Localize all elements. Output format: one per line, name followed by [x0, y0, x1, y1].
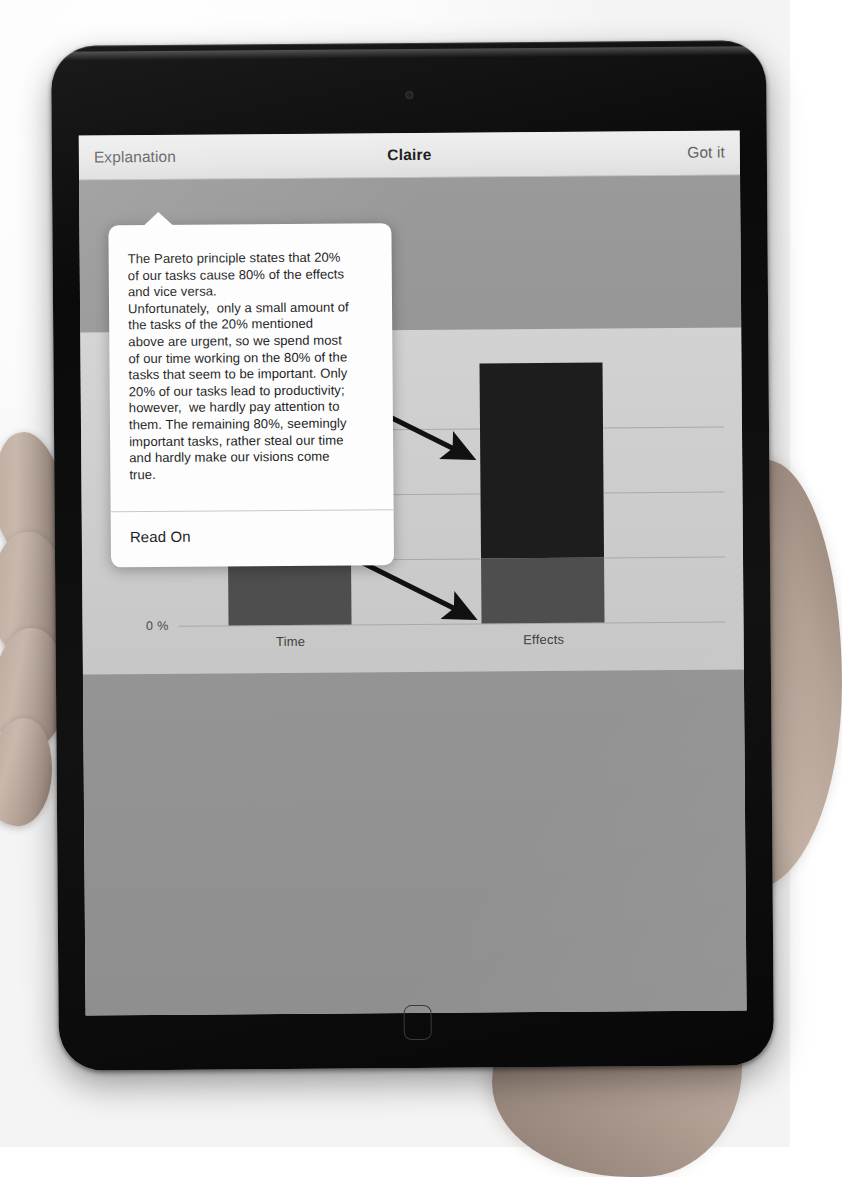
- popover-body-text: The Pareto principle states that 20% of …: [108, 223, 393, 502]
- tablet-device: Explanation Claire Got it Pareto Princip…: [51, 40, 774, 1071]
- bezel-highlight: [59, 46, 758, 60]
- bar-effects-segment-majority: [479, 363, 604, 559]
- app-content: Pareto Principle 0 % 20 % 40 % 60 %: [79, 175, 747, 1015]
- bar-effects-segment-minority: [481, 557, 605, 623]
- front-camera-icon: [405, 91, 413, 99]
- bar-effects[interactable]: [479, 363, 604, 624]
- page-title: Claire: [79, 143, 740, 166]
- x-category-effects: Effects: [464, 631, 624, 647]
- navigation-bar: Explanation Claire Got it: [79, 130, 740, 180]
- x-category-time: Time: [211, 633, 371, 649]
- home-button[interactable]: [403, 1005, 431, 1040]
- bottom-background-band: [83, 669, 747, 1015]
- explanation-popover: The Pareto principle states that 20% of …: [108, 223, 394, 568]
- arrow-time-majority-to-effects-minority: [354, 558, 472, 619]
- read-on-button[interactable]: Read On: [111, 510, 394, 567]
- popover-pointer-arrow: [143, 212, 173, 226]
- y-tick-0: 0 %: [98, 619, 168, 634]
- device-screen: Explanation Claire Got it Pareto Princip…: [79, 130, 747, 1015]
